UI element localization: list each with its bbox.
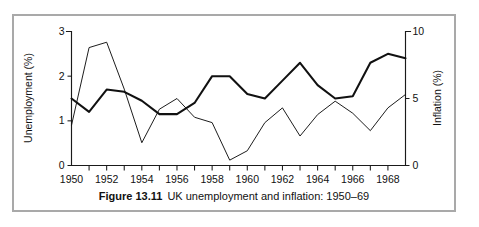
x-tick-label: 1966 — [341, 173, 365, 185]
chart-axes — [67, 32, 411, 166]
caption-description: UK unemployment and inflation: 1950–69 — [167, 190, 369, 202]
y-tick-label-right: 10 — [413, 25, 425, 37]
x-tick-label: 1968 — [376, 173, 400, 185]
x-tick-label: 1958 — [200, 173, 224, 185]
chart-ticks — [68, 32, 410, 171]
x-tick-label: 1950 — [60, 173, 84, 185]
x-tick-label: 1956 — [165, 173, 189, 185]
y-axis-title-left: Unemployment (%) — [22, 53, 34, 143]
y-tick-label-left: 3 — [59, 25, 65, 37]
x-tick-label: 1960 — [236, 173, 260, 185]
figure-container: 0123051019501952195419561958196019621964… — [0, 0, 479, 227]
y-axis-left — [67, 32, 406, 166]
y-tick-label-right: 5 — [413, 92, 419, 104]
x-tick-label: 1964 — [306, 173, 330, 185]
y-tick-label-left: 0 — [59, 159, 65, 171]
y-axis-title-right: Inflation (%) — [431, 70, 443, 126]
y-tick-label-left: 2 — [59, 70, 65, 82]
series-line-unemployment — [72, 54, 406, 114]
y-tick-label-left: 1 — [59, 114, 65, 126]
caption-figure-number: Figure 13.11 — [99, 190, 163, 202]
x-tick-label: 1962 — [271, 173, 295, 185]
chart-labels: 0123051019501952195419561958196019621964… — [22, 25, 443, 184]
x-tick-label: 1952 — [95, 173, 119, 185]
series-line-inflation — [72, 42, 406, 160]
chart-series — [72, 42, 406, 160]
figure-caption: Figure 13.11UK unemployment and inflatio… — [14, 190, 454, 202]
x-tick-label: 1954 — [130, 173, 154, 185]
y-tick-label-right: 0 — [413, 159, 419, 171]
